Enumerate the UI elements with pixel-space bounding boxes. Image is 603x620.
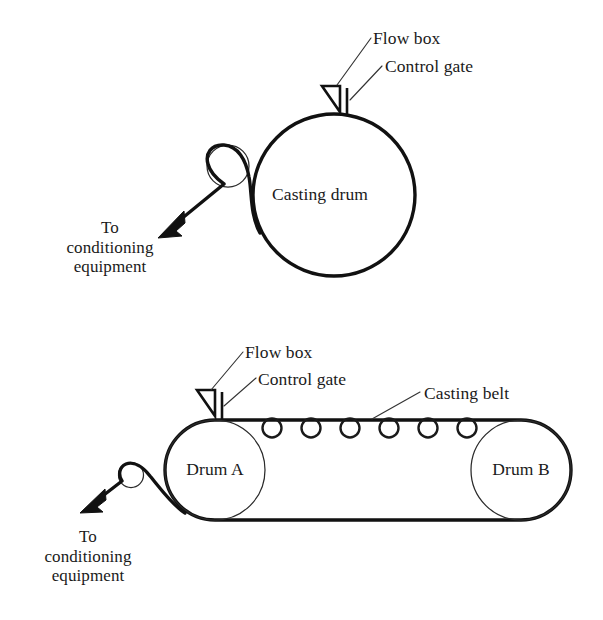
label-exit-bottom-line2: conditioning: [8, 547, 168, 567]
label-exit-top-line2: conditioning: [30, 238, 190, 258]
flow-box-triangle-bottom: [197, 390, 215, 416]
label-exit-bottom-line3: equipment: [8, 566, 168, 586]
label-drum-b: Drum B: [471, 459, 571, 479]
label-control-gate-top: Control gate: [385, 56, 473, 76]
diagram-canvas: Flow box Control gate Casting drum To co…: [0, 0, 603, 620]
label-flow-box-top: Flow box: [373, 28, 440, 48]
web-arrowhead-bottom: [80, 489, 106, 513]
top-diagram-group: [158, 38, 415, 276]
label-exit-bottom-line1: To: [8, 527, 168, 547]
label-drum-a: Drum A: [165, 459, 265, 479]
label-casting-belt: Casting belt: [424, 383, 509, 403]
label-control-gate-bottom: Control gate: [258, 369, 346, 389]
leader-flow-box-bottom: [211, 352, 243, 390]
label-casting-drum: Casting drum: [272, 184, 368, 204]
label-exit-top-line1: To: [30, 218, 190, 238]
label-exit-top-line3: equipment: [30, 257, 190, 277]
leader-casting-belt: [372, 392, 420, 419]
leader-control-gate-top: [350, 66, 382, 100]
label-exit-bottom: To conditioning equipment: [8, 527, 168, 586]
leader-control-gate-bottom: [224, 378, 256, 406]
label-exit-top: To conditioning equipment: [30, 218, 190, 277]
flow-box-triangle-top: [322, 86, 340, 112]
label-flow-box-bottom: Flow box: [245, 342, 312, 362]
guide-roller-circle-top: [207, 145, 249, 187]
leader-flow-box-top: [337, 38, 371, 85]
